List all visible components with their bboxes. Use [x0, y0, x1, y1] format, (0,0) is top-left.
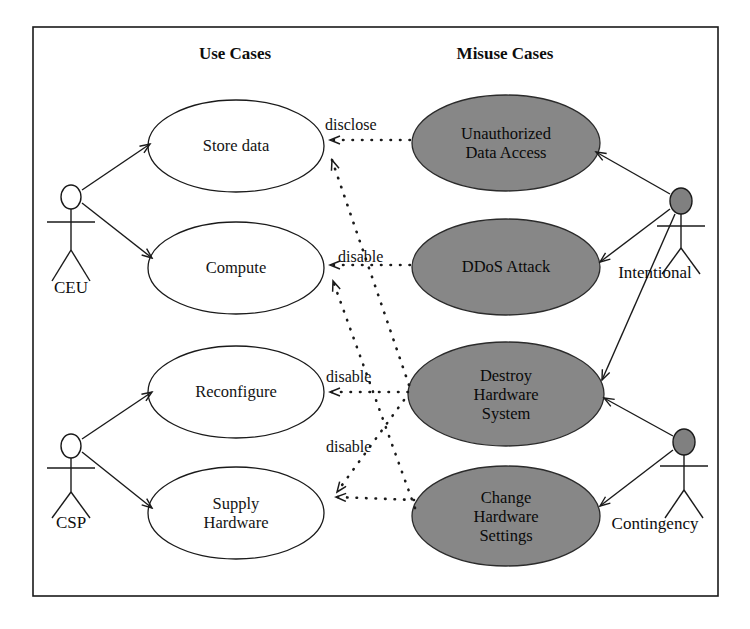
- use-case-supply-hardware[interactable]: [148, 467, 324, 559]
- diagram-frame: [33, 27, 718, 596]
- misuse-case-unauthorized-data-access[interactable]: [412, 95, 600, 191]
- column-title-misuse-cases: Misuse Cases: [435, 44, 575, 64]
- assoc-intentional-unauthorized-data-access: [596, 152, 670, 194]
- use-case-compute[interactable]: [148, 222, 324, 314]
- misuse-case-ddos-attack[interactable]: [412, 219, 600, 315]
- relation-label-disable-compute: disable: [338, 248, 383, 266]
- misuse-case-destroy-hardware-system[interactable]: [408, 342, 604, 446]
- actor-label-csp: CSP: [31, 513, 111, 533]
- actor-label-contingency: Contingency: [590, 514, 720, 534]
- assoc-csp-supply-hardware: [82, 452, 152, 508]
- assoc-contingency-destroy-hardware-system: [604, 398, 673, 436]
- diagram-canvas: Store data (horizontal) --> Store data (…: [0, 0, 750, 629]
- actor-csp[interactable]: [47, 434, 95, 518]
- assoc-intentional-ddos-attack: [600, 209, 670, 262]
- actor-intentional[interactable]: [657, 188, 705, 274]
- misuse-case-change-hardware-settings[interactable]: [412, 466, 600, 566]
- rel-disable-supply-hardware-from-change: [336, 497, 414, 500]
- assoc-intentional-destroy-hardware-system: [602, 214, 675, 380]
- assoc-csp-reconfigure: [82, 392, 152, 439]
- assoc-contingency-change-hardware-settings: [600, 450, 673, 506]
- assoc-ceu-store-data: [82, 144, 150, 190]
- relation-label-disable-reconfigure: disable: [326, 368, 371, 386]
- rel-disable-compute-from-change: [333, 281, 415, 508]
- column-title-use-cases: Use Cases: [175, 44, 295, 64]
- diagram-vector-layer: Store data (horizontal) --> Store data (…: [0, 0, 750, 629]
- use-case-reconfigure[interactable]: [148, 346, 324, 438]
- assoc-ceu-compute: [82, 203, 152, 258]
- relation-label-disable-supply-hardware: disable: [326, 438, 371, 456]
- relation-label-disclose: disclose: [325, 116, 377, 134]
- actor-contingency[interactable]: [660, 429, 708, 518]
- actor-ceu[interactable]: [47, 185, 95, 281]
- rel-disable-store-data-from-destroy: [332, 160, 409, 385]
- use-case-store-data[interactable]: [148, 100, 324, 192]
- actor-label-intentional: Intentional: [595, 263, 715, 283]
- actor-label-ceu: CEU: [31, 278, 111, 298]
